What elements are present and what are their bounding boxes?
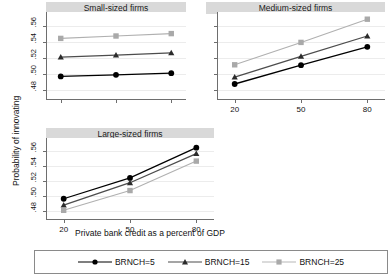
y-tick-label: .56 [29, 17, 38, 35]
x-tick [196, 220, 197, 223]
data-point-marker [193, 145, 199, 151]
y-tick-label: .56 [29, 142, 38, 160]
x-tick [367, 100, 368, 103]
legend-item: BRNCH=15 [168, 257, 250, 267]
x-tick-label: 50 [297, 105, 306, 114]
x-tick-label: 80 [192, 225, 201, 234]
data-point-marker [169, 31, 174, 36]
data-point-marker [113, 72, 119, 78]
x-tick [301, 100, 302, 103]
panel-plot-area [46, 12, 186, 100]
x-tick [64, 220, 65, 223]
legend-marker-square [262, 257, 296, 267]
panel-plot-area [46, 138, 214, 220]
x-tick-label: 20 [230, 105, 239, 114]
data-point-marker [298, 40, 303, 45]
legend-item: BRNCH=5 [78, 257, 155, 267]
data-point-marker [127, 188, 132, 193]
y-tick-label: .54 [29, 33, 38, 51]
legend-marker-circle [78, 257, 112, 267]
y-tick-label: .52 [29, 49, 38, 67]
y-tick-label: .48 [29, 81, 38, 99]
y-axis-title: Probability of innovating [11, 96, 21, 186]
x-tick [61, 100, 62, 103]
panel-series-layer [217, 12, 385, 100]
data-point-marker [58, 36, 63, 41]
data-point-marker [298, 62, 304, 68]
data-point-marker [168, 70, 174, 76]
panel-series-layer [46, 12, 186, 100]
y-tick-label: .54 [29, 157, 38, 175]
chart-legend: BRNCH=5 BRNCH=15 BRNCH=25 [34, 250, 388, 274]
y-tick-label: .50 [29, 65, 38, 83]
data-point-marker [232, 62, 237, 67]
data-point-marker [61, 208, 66, 213]
legend-label: BRNCH=25 [299, 257, 344, 267]
panel-series-layer [46, 138, 214, 220]
x-tick-label: 50 [126, 225, 135, 234]
data-point-marker [365, 17, 370, 22]
legend-marker-triangle [168, 257, 202, 267]
series-line [64, 161, 197, 210]
x-tick [116, 100, 117, 103]
x-tick [130, 220, 131, 223]
panel-plot-area [217, 12, 385, 100]
data-point-marker [364, 33, 370, 39]
x-tick-label: 80 [363, 105, 372, 114]
data-point-marker [364, 44, 370, 50]
legend-label: BRNCH=5 [115, 257, 155, 267]
data-point-marker [113, 33, 118, 38]
chart-root: Probability of innovating Private bank c… [0, 0, 390, 279]
x-tick [171, 100, 172, 103]
x-tick-label: 20 [59, 225, 68, 234]
data-point-marker [194, 158, 199, 163]
x-tick [235, 100, 236, 103]
legend-label: BRNCH=15 [205, 257, 250, 267]
legend-item: BRNCH=25 [262, 257, 344, 267]
data-point-marker [61, 196, 67, 202]
x-axis-title: Private bank credit as a percent of GDP [50, 228, 250, 238]
data-point-marker [58, 74, 64, 80]
data-point-marker [232, 81, 238, 87]
data-point-marker [193, 151, 199, 157]
